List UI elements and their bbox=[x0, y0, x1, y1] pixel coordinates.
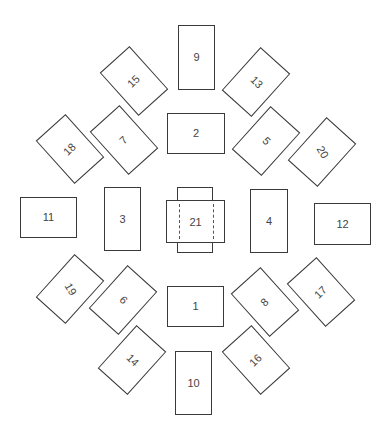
card-label: 9 bbox=[193, 52, 199, 63]
card-8: 8 bbox=[231, 267, 300, 337]
card-label: 3 bbox=[119, 214, 125, 225]
card-label: 7 bbox=[117, 134, 129, 146]
card-9: 9 bbox=[178, 25, 215, 90]
card-label: 1 bbox=[192, 301, 198, 312]
dashed-line-left bbox=[179, 204, 180, 239]
card-label: 2 bbox=[193, 128, 199, 139]
card-spread-diagram: 1 2 3 4 5 6 7 8 9 10 11 12 13 14 15 16 1… bbox=[0, 0, 390, 439]
card-label: 12 bbox=[336, 219, 348, 230]
card-label: 10 bbox=[187, 378, 199, 389]
card-label: 5 bbox=[260, 135, 272, 147]
card-14: 14 bbox=[98, 325, 167, 395]
card-20: 20 bbox=[288, 117, 357, 187]
card-16: 16 bbox=[222, 325, 291, 395]
card-17: 17 bbox=[286, 257, 355, 327]
card-label: 6 bbox=[117, 293, 129, 305]
card-12: 12 bbox=[314, 203, 371, 245]
card-5: 5 bbox=[232, 106, 301, 176]
card-10: 10 bbox=[175, 351, 212, 415]
card-13: 13 bbox=[222, 47, 291, 117]
card-label: 15 bbox=[126, 72, 142, 88]
dashed-line-right bbox=[213, 204, 214, 239]
center-horizontal-card: 21 bbox=[166, 200, 225, 243]
card-3: 3 bbox=[104, 187, 141, 251]
card-label: 4 bbox=[266, 216, 272, 227]
card-label: 8 bbox=[259, 295, 271, 307]
card-label: 20 bbox=[314, 144, 330, 160]
card-label: 19 bbox=[62, 281, 78, 297]
card-1: 1 bbox=[167, 286, 224, 327]
center-card-label: 21 bbox=[189, 216, 201, 228]
card-label: 16 bbox=[248, 351, 264, 367]
card-label: 13 bbox=[248, 73, 264, 89]
card-label: 18 bbox=[62, 140, 78, 156]
card-label: 17 bbox=[312, 284, 328, 300]
card-2: 2 bbox=[167, 113, 225, 154]
card-4: 4 bbox=[250, 189, 288, 253]
card-6: 6 bbox=[89, 265, 158, 335]
card-7: 7 bbox=[89, 105, 158, 175]
card-label: 14 bbox=[124, 352, 140, 368]
card-label: 11 bbox=[43, 212, 54, 223]
card-15: 15 bbox=[100, 46, 169, 116]
card-18: 18 bbox=[36, 114, 105, 184]
card-19: 19 bbox=[35, 254, 104, 324]
card-11: 11 bbox=[20, 197, 77, 238]
